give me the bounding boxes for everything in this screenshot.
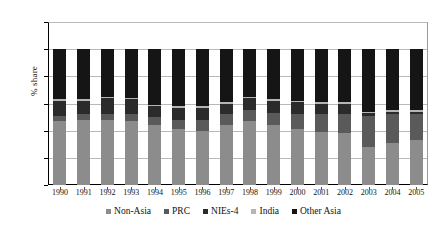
bar-segment-non-asia-1990 xyxy=(53,121,66,185)
y-tick-mark-40 xyxy=(44,131,48,132)
x-tick-mark-1990 xyxy=(60,187,61,190)
bar-segment-prc-1990 xyxy=(53,116,66,121)
x-tick-mark-1995 xyxy=(179,187,180,190)
bar-segment-prc-1994 xyxy=(148,117,161,125)
bar-segment-other-asia-1998 xyxy=(243,49,256,97)
x-tick-mark-2003 xyxy=(369,187,370,190)
x-tick-mark-1991 xyxy=(84,187,85,190)
bar-segment-nies-4-2001 xyxy=(315,104,328,115)
legend-item-non-asia[interactable]: Non-Asia xyxy=(106,206,151,216)
bar-segment-prc-2001 xyxy=(315,114,328,132)
legend-item-prc[interactable]: PRC xyxy=(164,206,190,216)
bar-segment-non-asia-2002 xyxy=(338,133,351,185)
bar-segment-nies-4-2003 xyxy=(362,113,375,116)
bar-2000[interactable] xyxy=(291,22,304,185)
bar-segment-other-asia-2000 xyxy=(291,49,304,101)
x-tick-mark-2000 xyxy=(297,187,298,190)
bar-segment-other-asia-2004 xyxy=(386,49,399,110)
legend-label: Other Asia xyxy=(300,206,341,216)
y-tick-mark-20 xyxy=(44,158,48,159)
bar-segment-india-1995 xyxy=(172,106,185,107)
bar-segment-prc-2005 xyxy=(410,114,423,140)
legend-item-india[interactable]: India xyxy=(251,206,279,216)
bar-segment-india-1997 xyxy=(220,102,233,103)
legend-label: NIEs-4 xyxy=(211,206,238,216)
x-tick-mark-2005 xyxy=(416,187,417,190)
y-tick-mark-120 xyxy=(44,22,48,23)
bar-segment-prc-1997 xyxy=(220,114,233,125)
bar-segment-india-2002 xyxy=(338,102,351,103)
legend-label: Non-Asia xyxy=(114,206,151,216)
bar-1999[interactable] xyxy=(267,22,280,185)
y-tick-mark-0 xyxy=(44,185,48,186)
bar-1996[interactable] xyxy=(196,22,209,185)
bar-segment-nies-4-1991 xyxy=(77,101,90,115)
chart-legend: Non-AsiaPRCNIEs-4IndiaOther Asia xyxy=(0,206,447,216)
bar-segment-india-1993 xyxy=(125,98,138,99)
bar-segment-non-asia-2001 xyxy=(315,132,328,185)
bar-segment-india-1994 xyxy=(148,105,161,106)
bar-2001[interactable] xyxy=(315,22,328,185)
legend-swatch-icon xyxy=(251,209,256,214)
bar-segment-non-asia-2000 xyxy=(291,129,304,185)
y-tick-mark-80 xyxy=(44,76,48,77)
bar-segment-india-1996 xyxy=(196,106,209,107)
bar-segment-prc-2000 xyxy=(291,114,304,129)
bar-segment-non-asia-2005 xyxy=(410,140,423,185)
bar-segment-other-asia-2001 xyxy=(315,49,328,102)
legend-swatch-icon xyxy=(203,209,208,214)
bar-segment-india-2003 xyxy=(362,112,375,113)
bar-segment-non-asia-1999 xyxy=(267,125,280,185)
bars-layer xyxy=(48,22,428,185)
legend-swatch-icon xyxy=(106,209,111,214)
bar-segment-other-asia-1995 xyxy=(172,49,185,106)
bar-2004[interactable] xyxy=(386,22,399,185)
bar-segment-nies-4-1992 xyxy=(101,98,114,114)
x-tick-mark-2004 xyxy=(392,187,393,190)
bar-segment-india-2005 xyxy=(410,110,423,111)
bar-segment-other-asia-1992 xyxy=(101,49,114,97)
bar-2002[interactable] xyxy=(338,22,351,185)
bar-2005[interactable] xyxy=(410,22,423,185)
bar-segment-non-asia-1993 xyxy=(125,121,138,185)
legend-item-other-asia[interactable]: Other Asia xyxy=(292,206,341,216)
bar-segment-nies-4-1997 xyxy=(220,104,233,115)
bar-segment-india-2004 xyxy=(386,110,399,111)
bar-1998[interactable] xyxy=(243,22,256,185)
x-tick-mark-1993 xyxy=(131,187,132,190)
y-tick-mark-60 xyxy=(44,104,48,105)
bar-segment-non-asia-1992 xyxy=(101,120,114,185)
bar-1991[interactable] xyxy=(77,22,90,185)
bar-segment-prc-1992 xyxy=(101,114,114,119)
bar-segment-nies-4-1993 xyxy=(125,99,138,114)
bar-segment-nies-4-2004 xyxy=(386,112,399,115)
bar-1994[interactable] xyxy=(148,22,161,185)
x-tick-mark-1994 xyxy=(155,187,156,190)
bar-segment-other-asia-1993 xyxy=(125,49,138,98)
bar-segment-india-2001 xyxy=(315,102,328,103)
x-tick-mark-1997 xyxy=(226,187,227,190)
bar-segment-nies-4-1994 xyxy=(148,106,161,117)
x-tick-mark-1999 xyxy=(274,187,275,190)
bar-segment-prc-1996 xyxy=(196,120,209,131)
bar-1992[interactable] xyxy=(101,22,114,185)
bar-1990[interactable] xyxy=(53,22,66,185)
legend-item-nies-4[interactable]: NIEs-4 xyxy=(203,206,238,216)
bar-segment-prc-1991 xyxy=(77,114,90,119)
bar-segment-prc-2003 xyxy=(362,116,375,147)
x-axis-labels: 1990199119921993199419951996199719981999… xyxy=(48,187,428,201)
legend-label: PRC xyxy=(172,206,190,216)
bar-segment-non-asia-1994 xyxy=(148,125,161,185)
bar-segment-other-asia-2005 xyxy=(410,49,423,110)
bar-segment-prc-2004 xyxy=(386,114,399,143)
bar-segment-other-asia-1991 xyxy=(77,49,90,99)
bar-segment-india-1990 xyxy=(53,99,66,100)
bar-1995[interactable] xyxy=(172,22,185,185)
x-tick-mark-1992 xyxy=(107,187,108,190)
bar-segment-nies-4-1996 xyxy=(196,108,209,120)
bar-1993[interactable] xyxy=(125,22,138,185)
bar-1997[interactable] xyxy=(220,22,233,185)
bar-2003[interactable] xyxy=(362,22,375,185)
x-tick-mark-1998 xyxy=(250,187,251,190)
bar-segment-india-1991 xyxy=(77,99,90,100)
